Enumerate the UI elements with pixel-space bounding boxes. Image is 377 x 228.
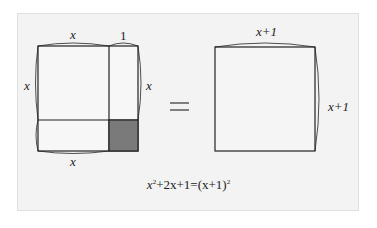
label-top-1: 1	[120, 28, 127, 43]
label-left-x: x	[23, 78, 30, 93]
label-bottom-x: x	[69, 154, 76, 169]
equation: x2+2x+1=(x+1)2	[0, 177, 377, 193]
label-right-x-plus-1: x+1	[327, 99, 349, 114]
label-right-x: x	[145, 78, 152, 93]
eq-body: +2x+1=(x+1)	[156, 177, 226, 192]
right-square-figure	[215, 43, 319, 151]
label-top-x-plus-1: x+1	[255, 24, 277, 39]
eq-exp-right: 2	[227, 178, 231, 186]
shaded-unit-square	[109, 120, 138, 151]
label-top-x: x	[69, 27, 76, 42]
equals-sign	[170, 103, 189, 110]
diagram-svg: x 1 x x x x+1 x+1	[0, 0, 377, 228]
left-square-figure	[36, 43, 142, 154]
